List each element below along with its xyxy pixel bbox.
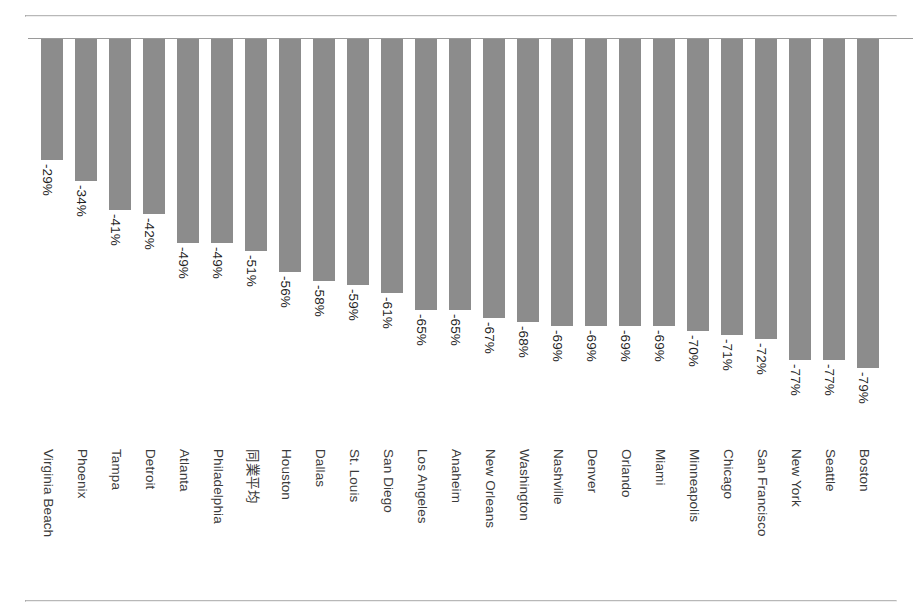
bar-chart: -29%Virginia Beach-34%Phoenix-41%Tampa-4…: [0, 0, 919, 607]
bar[interactable]: [313, 39, 335, 281]
category-axis-label: Detroit: [143, 449, 157, 489]
bar-value-label: -71%: [720, 339, 734, 371]
category-axis-label: Miami: [653, 449, 667, 486]
bar-value-label: -65%: [414, 314, 428, 346]
bar-value-label: -51%: [244, 255, 258, 287]
category-axis-label: Washington: [517, 449, 531, 521]
bar-slot: -69%Nashville: [549, 39, 583, 599]
bar[interactable]: [789, 39, 811, 360]
bar-value-label: -79%: [856, 372, 870, 404]
bar-slot: -49%Atlanta: [175, 39, 209, 599]
bar[interactable]: [551, 39, 573, 326]
bar-slot: -61%San Diego: [379, 39, 413, 599]
bar-value-label: -70%: [686, 335, 700, 367]
bar-value-label: -58%: [312, 285, 326, 317]
bar[interactable]: [109, 39, 131, 210]
category-axis-label: Houston: [279, 449, 293, 500]
bar-value-label: -61%: [380, 297, 394, 329]
bar[interactable]: [41, 39, 63, 160]
category-axis-label: Denver: [585, 449, 599, 493]
bar-slot: -69%Orlando: [617, 39, 651, 599]
bar-slot: -58%Dallas: [311, 39, 345, 599]
category-axis-label: Dallas: [313, 449, 327, 487]
bar-slot: -79%Boston: [855, 39, 889, 599]
page-root: -29%Virginia Beach-34%Phoenix-41%Tampa-4…: [0, 0, 919, 607]
category-axis-label: St. Louis: [347, 449, 361, 502]
category-axis-label: Orlando: [619, 449, 633, 498]
bar-value-label: -68%: [516, 326, 530, 358]
bar-slot: -51%同業平均: [243, 39, 277, 599]
category-axis-label: San Diego: [381, 449, 395, 513]
bar-slot: -65%Anaheim: [447, 39, 481, 599]
bar-slot: -34%Phoenix: [73, 39, 107, 599]
bar[interactable]: [517, 39, 539, 322]
category-axis-label: Seattle: [823, 449, 837, 492]
category-axis-label: New York: [789, 449, 803, 507]
bar-slot: -68%Washington: [515, 39, 549, 599]
bar[interactable]: [721, 39, 743, 335]
category-axis-label: Tampa: [109, 449, 123, 490]
bar-value-label: -69%: [618, 330, 632, 362]
bar[interactable]: [347, 39, 369, 285]
bar-value-label: -72%: [754, 343, 768, 375]
bar-value-label: -29%: [40, 164, 54, 196]
bar[interactable]: [857, 39, 879, 368]
bar-value-label: -69%: [652, 330, 666, 362]
bar[interactable]: [653, 39, 675, 326]
bar[interactable]: [75, 39, 97, 181]
bar[interactable]: [211, 39, 233, 243]
bar-slot: -70%Minneapolis: [685, 39, 719, 599]
category-axis-label: Virginia Beach: [41, 449, 55, 537]
bar-value-label: -41%: [108, 214, 122, 246]
bar-slot: -29%Virginia Beach: [39, 39, 73, 599]
bar[interactable]: [619, 39, 641, 326]
bar-value-label: -69%: [584, 330, 598, 362]
bar[interactable]: [483, 39, 505, 318]
bar-slot: -49%Philadelphia: [209, 39, 243, 599]
category-axis-label: Nashville: [551, 449, 565, 505]
bar[interactable]: [585, 39, 607, 326]
bar[interactable]: [245, 39, 267, 251]
bar-value-label: -42%: [142, 218, 156, 250]
bar-value-label: -59%: [346, 289, 360, 321]
bar[interactable]: [177, 39, 199, 243]
bar[interactable]: [823, 39, 845, 360]
bar[interactable]: [381, 39, 403, 293]
bar-slot: -69%Denver: [583, 39, 617, 599]
bar-slot: -77%Seattle: [821, 39, 855, 599]
bar-slot: -56%Houston: [277, 39, 311, 599]
bar-slot: -42%Detroit: [141, 39, 175, 599]
bar-slot: -69%Miami: [651, 39, 685, 599]
category-axis-label: Los Angeles: [415, 449, 429, 524]
bottom-divider-rule: [25, 600, 897, 602]
category-axis-label: Atlanta: [177, 449, 191, 492]
bar-value-label: -69%: [550, 330, 564, 362]
category-axis-label: Chicago: [721, 449, 735, 499]
bar[interactable]: [415, 39, 437, 310]
bar[interactable]: [449, 39, 471, 310]
bar-value-label: -67%: [482, 322, 496, 354]
bar-value-label: -65%: [448, 314, 462, 346]
bar[interactable]: [687, 39, 709, 331]
bar[interactable]: [279, 39, 301, 272]
category-axis-label: Boston: [857, 449, 871, 492]
category-axis-label: New Orleans: [483, 449, 497, 528]
bar-value-label: -77%: [822, 364, 836, 396]
bar[interactable]: [755, 39, 777, 339]
bar-value-label: -49%: [210, 247, 224, 279]
bar-slot: -41%Tampa: [107, 39, 141, 599]
bar-value-label: -77%: [788, 364, 802, 396]
category-axis-label: Minneapolis: [687, 449, 701, 522]
bar-slot: -67%New Orleans: [481, 39, 515, 599]
bar-slot: -77%New York: [787, 39, 821, 599]
category-axis-label: Philadelphia: [211, 449, 225, 524]
bar[interactable]: [143, 39, 165, 214]
bar-value-label: -56%: [278, 276, 292, 308]
bar-slot: -59%St. Louis: [345, 39, 379, 599]
bar-slot: -71%Chicago: [719, 39, 753, 599]
category-axis-label: San Francisco: [755, 449, 769, 537]
bar-slot: -72%San Francisco: [753, 39, 787, 599]
bar-value-label: -49%: [176, 247, 190, 279]
category-axis-label: Phoenix: [75, 449, 89, 499]
category-axis-label: Anaheim: [449, 449, 463, 503]
